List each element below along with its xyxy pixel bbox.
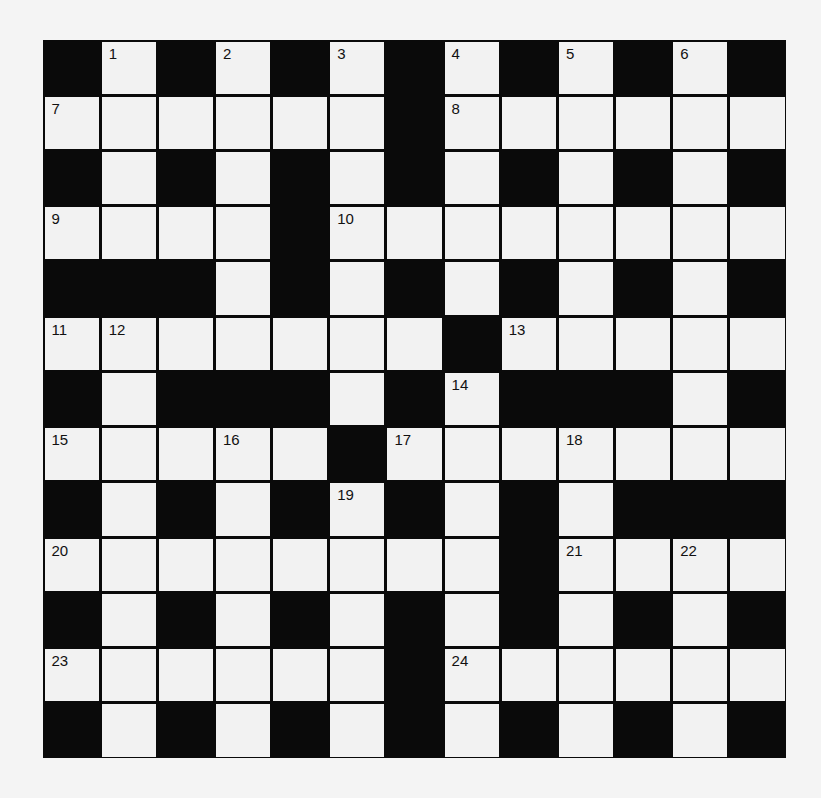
crossword-cell[interactable] [730, 318, 784, 370]
crossword-cell[interactable] [673, 704, 727, 756]
crossword-cell[interactable] [559, 318, 613, 370]
crossword-cell[interactable] [216, 704, 270, 756]
crossword-cell[interactable] [559, 97, 613, 149]
crossword-cell[interactable]: 7 [45, 97, 99, 149]
crossword-cell[interactable]: 18 [559, 428, 613, 480]
crossword-cell[interactable] [559, 483, 613, 535]
crossword-cell[interactable] [559, 704, 613, 756]
crossword-cell[interactable]: 22 [673, 539, 727, 591]
crossword-cell[interactable] [730, 428, 784, 480]
crossword-cell[interactable] [102, 97, 156, 149]
crossword-cell[interactable]: 3 [330, 42, 384, 94]
crossword-cell[interactable] [330, 97, 384, 149]
crossword-cell[interactable]: 8 [445, 97, 499, 149]
crossword-cell[interactable] [330, 262, 384, 314]
crossword-cell[interactable] [445, 207, 499, 259]
crossword-cell[interactable] [445, 594, 499, 646]
crossword-cell[interactable] [616, 649, 670, 701]
crossword-cell[interactable] [273, 428, 327, 480]
crossword-cell[interactable] [102, 704, 156, 756]
crossword-cell[interactable] [559, 262, 613, 314]
crossword-cell[interactable] [102, 152, 156, 204]
crossword-cell[interactable] [216, 97, 270, 149]
crossword-cell[interactable] [445, 262, 499, 314]
crossword-cell[interactable]: 15 [45, 428, 99, 480]
crossword-cell[interactable] [673, 318, 727, 370]
crossword-cell[interactable]: 14 [445, 373, 499, 425]
crossword-cell[interactable] [159, 318, 213, 370]
crossword-cell[interactable] [445, 539, 499, 591]
crossword-cell[interactable] [273, 318, 327, 370]
crossword-cell[interactable] [273, 539, 327, 591]
crossword-cell[interactable]: 11 [45, 318, 99, 370]
crossword-cell[interactable] [616, 428, 670, 480]
crossword-cell[interactable] [216, 318, 270, 370]
crossword-cell[interactable] [273, 649, 327, 701]
crossword-cell[interactable] [502, 207, 556, 259]
crossword-cell[interactable] [216, 152, 270, 204]
crossword-cell[interactable] [102, 649, 156, 701]
crossword-cell[interactable] [330, 539, 384, 591]
crossword-cell[interactable] [159, 207, 213, 259]
crossword-cell[interactable] [616, 539, 670, 591]
crossword-cell[interactable] [216, 483, 270, 535]
crossword-cell[interactable] [387, 207, 441, 259]
crossword-cell[interactable] [330, 649, 384, 701]
crossword-cell[interactable]: 21 [559, 539, 613, 591]
crossword-cell[interactable] [216, 539, 270, 591]
crossword-cell[interactable] [330, 373, 384, 425]
crossword-cell[interactable] [616, 318, 670, 370]
crossword-cell[interactable]: 24 [445, 649, 499, 701]
crossword-cell[interactable] [502, 649, 556, 701]
crossword-cell[interactable] [673, 428, 727, 480]
crossword-cell[interactable] [616, 207, 670, 259]
crossword-cell[interactable] [102, 373, 156, 425]
crossword-cell[interactable] [730, 649, 784, 701]
crossword-cell[interactable]: 5 [559, 42, 613, 94]
crossword-cell[interactable] [330, 152, 384, 204]
crossword-cell[interactable] [673, 649, 727, 701]
crossword-cell[interactable] [730, 539, 784, 591]
crossword-cell[interactable] [673, 262, 727, 314]
crossword-cell[interactable]: 2 [216, 42, 270, 94]
crossword-cell[interactable] [102, 207, 156, 259]
crossword-cell[interactable]: 9 [45, 207, 99, 259]
crossword-cell[interactable] [559, 649, 613, 701]
crossword-cell[interactable] [102, 428, 156, 480]
crossword-cell[interactable]: 10 [330, 207, 384, 259]
crossword-cell[interactable] [273, 97, 327, 149]
crossword-cell[interactable] [445, 428, 499, 480]
crossword-cell[interactable] [673, 373, 727, 425]
crossword-cell[interactable]: 23 [45, 649, 99, 701]
crossword-cell[interactable] [159, 97, 213, 149]
crossword-cell[interactable] [387, 539, 441, 591]
crossword-cell[interactable]: 13 [502, 318, 556, 370]
crossword-cell[interactable] [559, 594, 613, 646]
crossword-cell[interactable] [559, 207, 613, 259]
crossword-cell[interactable] [159, 649, 213, 701]
crossword-cell[interactable]: 17 [387, 428, 441, 480]
crossword-cell[interactable] [159, 428, 213, 480]
crossword-cell[interactable] [730, 207, 784, 259]
crossword-cell[interactable] [330, 704, 384, 756]
crossword-cell[interactable] [330, 318, 384, 370]
crossword-cell[interactable]: 20 [45, 539, 99, 591]
crossword-cell[interactable] [673, 152, 727, 204]
crossword-cell[interactable] [445, 152, 499, 204]
crossword-cell[interactable] [730, 97, 784, 149]
crossword-cell[interactable] [387, 318, 441, 370]
crossword-cell[interactable] [216, 262, 270, 314]
crossword-cell[interactable] [102, 539, 156, 591]
crossword-cell[interactable] [673, 97, 727, 149]
crossword-cell[interactable] [559, 152, 613, 204]
crossword-cell[interactable] [445, 704, 499, 756]
crossword-cell[interactable]: 12 [102, 318, 156, 370]
crossword-cell[interactable] [616, 97, 670, 149]
crossword-cell[interactable] [216, 594, 270, 646]
crossword-cell[interactable] [502, 97, 556, 149]
crossword-cell[interactable]: 4 [445, 42, 499, 94]
crossword-cell[interactable] [502, 428, 556, 480]
crossword-cell[interactable]: 16 [216, 428, 270, 480]
crossword-cell[interactable]: 6 [673, 42, 727, 94]
crossword-cell[interactable]: 1 [102, 42, 156, 94]
